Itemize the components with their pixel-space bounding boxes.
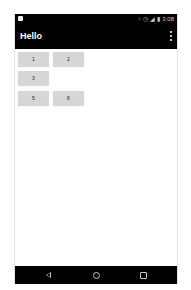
button-1[interactable]: 1 xyxy=(18,52,49,66)
home-circle-icon[interactable] xyxy=(93,272,100,279)
notification-icon xyxy=(18,16,23,21)
button-3[interactable]: 3 xyxy=(18,71,49,85)
more-vert-icon[interactable] xyxy=(169,31,172,41)
app-title: Hello xyxy=(20,31,42,41)
button-2[interactable]: 2 xyxy=(53,52,84,66)
content-area: 1 2 3 5 6 xyxy=(15,49,177,266)
status-bar: ○ ◷ ◢ ▮ 3:08 xyxy=(15,14,177,24)
navigation-bar xyxy=(15,266,177,284)
recents-square-icon[interactable] xyxy=(140,272,147,279)
vibrate-icon: ○ xyxy=(138,15,142,23)
battery-icon: ▮ xyxy=(157,15,160,23)
back-triangle-icon[interactable] xyxy=(46,272,51,278)
signal-icon: ◢ xyxy=(150,15,155,23)
clock-time: 3:08 xyxy=(162,15,174,23)
status-icons: ○ ◷ ◢ ▮ 3:08 xyxy=(138,15,174,23)
app-bar: Hello xyxy=(15,24,177,49)
phone-screen: ○ ◷ ◢ ▮ 3:08 Hello 1 2 3 5 6 xyxy=(14,14,178,284)
button-6[interactable]: 6 xyxy=(53,91,84,105)
alarm-icon: ◷ xyxy=(143,15,148,23)
button-5[interactable]: 5 xyxy=(18,91,49,105)
